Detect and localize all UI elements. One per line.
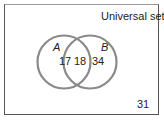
universal-set-label: Universal set	[101, 11, 164, 22]
set-b-label: B	[101, 42, 108, 53]
set-a-only-count: 17	[59, 56, 71, 67]
set-b-only-count: 34	[92, 56, 104, 67]
intersection-count: 18	[74, 56, 86, 67]
set-a-label: A	[53, 42, 60, 53]
outside-count: 31	[137, 99, 149, 110]
